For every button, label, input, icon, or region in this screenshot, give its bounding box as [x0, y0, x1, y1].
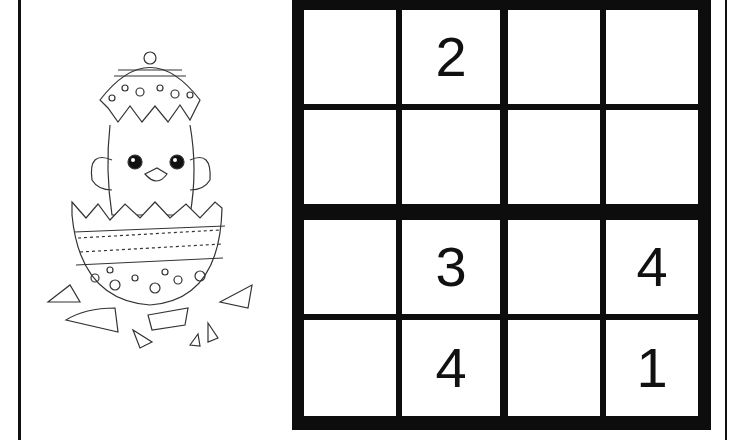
sudoku-cell-r3-c2[interactable]: 3 [402, 220, 500, 314]
chick-egg-illustration [40, 40, 280, 360]
sudoku-cell-r1-c4[interactable] [606, 10, 698, 104]
sudoku-cell-r4-c4[interactable]: 1 [606, 320, 698, 416]
sudoku-cell-r2-c2[interactable] [402, 110, 500, 204]
sudoku-cell-r1-c3[interactable] [508, 10, 600, 104]
page-border-right [725, 0, 727, 440]
sudoku-grid: 23441 [292, 0, 711, 430]
sudoku-cell-r2-c3[interactable] [508, 110, 600, 204]
sudoku-cell-r4-c3[interactable] [508, 320, 600, 416]
sudoku-cell-r3-c1[interactable] [304, 220, 396, 314]
sudoku-cell-r4-c2[interactable]: 4 [402, 320, 500, 416]
page-border-left [18, 0, 21, 440]
sudoku-cell-r4-c1[interactable] [304, 320, 396, 416]
sudoku-cell-r1-c2[interactable]: 2 [402, 10, 500, 104]
sudoku-cell-r1-c1[interactable] [304, 10, 396, 104]
sudoku-cell-r2-c1[interactable] [304, 110, 396, 204]
sudoku-cell-r3-c4[interactable]: 4 [606, 220, 698, 314]
sudoku-cell-r3-c3[interactable] [508, 220, 600, 314]
sudoku-cell-r2-c4[interactable] [606, 110, 698, 204]
